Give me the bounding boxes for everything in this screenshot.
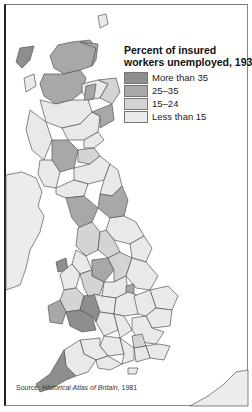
legend-label: More than 35 [152,72,208,83]
legend-item-25-35: 25–35 [124,84,252,97]
region-skye [24,74,36,92]
source-citation: Source: Historical Atlas of Britain, 198… [16,384,137,391]
legend-title-line1: Percent of insured [124,44,252,56]
region-outer-hebrides [16,46,34,68]
legend-item-15-24: 15–24 [124,97,252,110]
legend-item-less-than-15: Less than 15 [124,110,252,123]
source-prefix: Source: [16,384,42,391]
legend-swatch [124,98,148,110]
legend-items: More than 35 25–35 15–24 Less than 15 [124,71,252,123]
legend-label: Less than 15 [152,111,206,122]
source-title: Historical Atlas of Britain, [42,384,120,391]
region-lancashire [76,222,100,256]
map-legend: Percent of insured workers unemployed, 1… [124,44,252,123]
region-oxford [114,314,132,338]
region-isle-of-wight [128,368,138,374]
legend-swatch [124,85,148,97]
source-year: 1981 [120,384,138,391]
legend-label: 25–35 [152,85,178,96]
region-ross [40,70,86,104]
region-dumfries [56,180,88,198]
legend-swatch [124,72,148,84]
legend-swatch [124,111,148,123]
ireland-landmass [6,172,44,290]
france-landmass [190,370,248,406]
legend-title-line2: workers unemployed, 1932 [124,56,252,68]
region-orkney [98,14,108,28]
legend-item-more-than-35: More than 35 [124,71,252,84]
legend-label: 15–24 [152,98,178,109]
